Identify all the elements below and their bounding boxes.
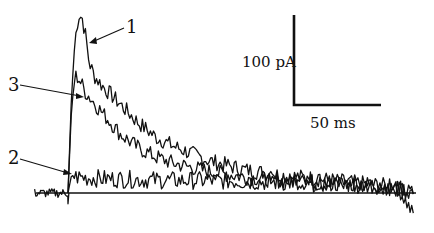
trace-3 — [68, 71, 413, 196]
arrowhead-2-icon — [63, 169, 72, 175]
current-traces-figure: 1 3 2 100 pA 50 ms — [0, 0, 434, 233]
arrowhead-1-icon — [89, 37, 97, 44]
trace-1 — [68, 17, 413, 213]
arrowhead-3-icon — [76, 93, 84, 99]
trace-label-2: 2 — [8, 147, 72, 175]
label-3-text: 3 — [8, 74, 19, 95]
trace-group — [35, 17, 414, 213]
leader-2 — [20, 159, 68, 173]
leader-3 — [20, 85, 80, 96]
scale-current-label: 100 pA — [242, 53, 296, 71]
scale-bar: 100 pA 50 ms — [242, 15, 381, 132]
label-1-text: 1 — [126, 16, 137, 37]
leader-1 — [92, 28, 124, 42]
label-2-text: 2 — [8, 147, 19, 168]
pre-stimulus-noise — [35, 189, 69, 204]
scale-time-label: 50 ms — [310, 114, 356, 132]
scale-bar-lines — [294, 15, 381, 105]
trace-label-1: 1 — [89, 16, 137, 44]
chart-canvas: 1 3 2 100 pA 50 ms — [0, 0, 434, 233]
